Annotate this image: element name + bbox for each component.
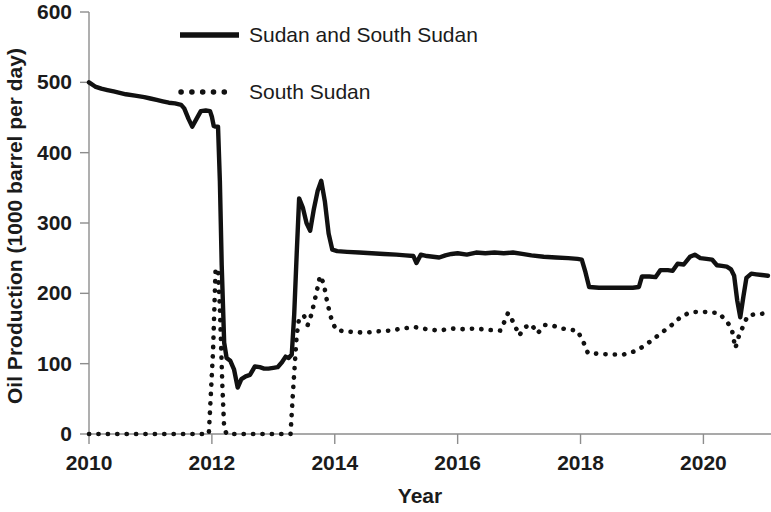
x-tick-label: 2012: [189, 451, 236, 474]
x-axis-group: 201020122014201620182020: [66, 434, 771, 474]
y-tick-label: 400: [37, 141, 72, 164]
y-tick-label: 0: [60, 422, 72, 445]
y-axis-ticks: [80, 12, 89, 434]
plot-series-group: [89, 82, 768, 434]
y-axis-group: 0100200300400500600: [37, 0, 89, 445]
chart-canvas: 0100200300400500600 20102012201420162018…: [0, 0, 771, 512]
y-tick-label: 100: [37, 352, 72, 375]
y-tick-label: 500: [37, 70, 72, 93]
x-tick-label: 2014: [311, 451, 358, 474]
x-tick-label: 2020: [680, 451, 727, 474]
legend-label-sudan-and-south-sudan: Sudan and South Sudan: [249, 23, 478, 46]
y-tick-label: 300: [37, 211, 72, 234]
series-south-sudan-line: [89, 269, 768, 434]
x-axis-tick-labels: 201020122014201620182020: [66, 451, 727, 474]
x-axis-ticks: [89, 434, 703, 444]
chart-legend: Sudan and South Sudan South Sudan: [180, 23, 478, 103]
x-tick-label: 2010: [66, 451, 113, 474]
legend-label-south-sudan: South Sudan: [249, 80, 370, 103]
y-axis-title: Oil Production (1000 barrel per day): [3, 48, 26, 404]
y-tick-label: 600: [37, 0, 72, 23]
x-tick-label: 2018: [557, 451, 604, 474]
oil-production-line-chart: 0100200300400500600 20102012201420162018…: [0, 0, 771, 512]
y-tick-label: 200: [37, 281, 72, 304]
series-sudan-and-south-sudan-line: [89, 82, 768, 387]
x-axis-title: Year: [398, 484, 442, 507]
x-tick-label: 2016: [434, 451, 481, 474]
y-axis-tick-labels: 0100200300400500600: [37, 0, 72, 445]
